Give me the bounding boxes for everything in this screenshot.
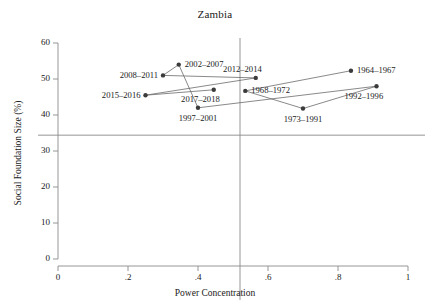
series-segment <box>146 78 256 95</box>
x-axis-label: Power Concentration <box>0 288 430 298</box>
y-axis-ticks <box>53 43 58 259</box>
data-point-marker[interactable] <box>196 106 200 110</box>
data-point-marker[interactable] <box>254 76 258 80</box>
data-point-label: 1992–1996 <box>345 91 395 101</box>
data-point-label: 2008–2011 <box>108 70 158 80</box>
data-point-marker[interactable] <box>212 88 216 92</box>
data-point-marker[interactable] <box>374 84 378 88</box>
data-point-label: 1997–2001 <box>173 113 223 123</box>
data-point-label: 2017–2018 <box>170 94 220 104</box>
x-tick-label: .6 <box>253 272 283 282</box>
data-point-marker[interactable] <box>161 73 165 77</box>
x-tick-label: 1 <box>393 272 423 282</box>
y-tick-label: 20 <box>20 181 50 191</box>
data-point-marker[interactable] <box>143 93 147 97</box>
x-axis-ticks <box>58 266 408 271</box>
y-tick-label: 50 <box>20 73 50 83</box>
y-tick-label: 30 <box>20 145 50 155</box>
data-point-label: 2012–2014 <box>212 64 262 74</box>
data-point-marker[interactable] <box>301 106 305 110</box>
y-tick-label: 60 <box>20 37 50 47</box>
series-segment <box>163 65 179 76</box>
y-tick-label: 10 <box>20 217 50 227</box>
x-tick-label: 0 <box>43 272 73 282</box>
chart-container: Zambia Power Concentration Social Founda… <box>0 0 430 308</box>
data-point-label: 1968–1972 <box>251 85 301 95</box>
data-point-marker[interactable] <box>243 89 247 93</box>
x-tick-label: .8 <box>323 272 353 282</box>
series-segment <box>163 75 256 78</box>
x-tick-label: .4 <box>183 272 213 282</box>
data-point-label: 2015–2016 <box>91 90 141 100</box>
data-point-label: 1964–1967 <box>357 65 407 75</box>
x-tick-label: .2 <box>113 272 143 282</box>
y-tick-label: 0 <box>20 253 50 263</box>
data-point-marker[interactable] <box>177 62 181 66</box>
data-point-label: 1973–1991 <box>278 114 328 124</box>
y-tick-label: 40 <box>20 109 50 119</box>
data-point-marker[interactable] <box>349 69 353 73</box>
scatter-plot <box>0 0 430 308</box>
